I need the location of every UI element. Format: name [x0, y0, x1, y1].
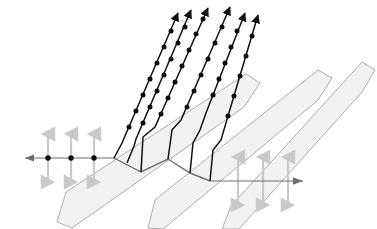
ray-dot — [192, 89, 197, 94]
ray-dot — [206, 57, 211, 62]
ray-dot — [232, 94, 237, 99]
ray-dot — [127, 125, 132, 130]
ray-dot — [169, 29, 174, 34]
ray-dot — [220, 25, 225, 30]
ray-dot — [223, 61, 228, 66]
ray-dot — [166, 96, 171, 101]
ray-dot — [244, 54, 249, 59]
ray-dot — [199, 73, 204, 78]
ray-dot — [238, 74, 243, 79]
ray-dot — [162, 45, 167, 50]
ray-dot — [173, 80, 178, 85]
ray-dot — [250, 34, 255, 39]
optics-diagram-canvas — [0, 0, 377, 229]
ray-dot — [185, 105, 190, 110]
ray-dot — [235, 29, 240, 34]
incoming-ray-arrowhead — [25, 155, 34, 162]
ray-dot — [229, 45, 234, 50]
ray-dot — [155, 61, 160, 66]
ray-dot — [180, 64, 185, 69]
ray-dot — [213, 41, 218, 46]
ray-dot — [159, 112, 164, 117]
ray-dot — [187, 48, 192, 53]
ray-dot — [148, 105, 153, 110]
ray-dot — [226, 114, 231, 119]
ray-diagram-svg — [0, 0, 377, 229]
ray-dot — [217, 77, 222, 82]
ray-dot — [141, 121, 146, 126]
ray-dot — [155, 89, 160, 94]
ray-dot — [201, 17, 206, 22]
incoming-ray-dot — [45, 155, 50, 160]
ray-dot — [183, 25, 188, 30]
ray-dot — [194, 32, 199, 37]
ray-dot — [162, 73, 167, 78]
outgoing-ray-arrowhead — [293, 177, 303, 184]
incoming-ray-dot — [68, 155, 73, 160]
incoming-ray — [25, 155, 114, 162]
ray-dot — [134, 109, 139, 114]
ray-dot — [148, 77, 153, 82]
ray-dot — [211, 93, 216, 98]
ray-dot — [141, 93, 146, 98]
ray-dot — [169, 57, 174, 62]
ray-dot — [176, 41, 181, 46]
incoming-ray-dot — [91, 155, 96, 160]
